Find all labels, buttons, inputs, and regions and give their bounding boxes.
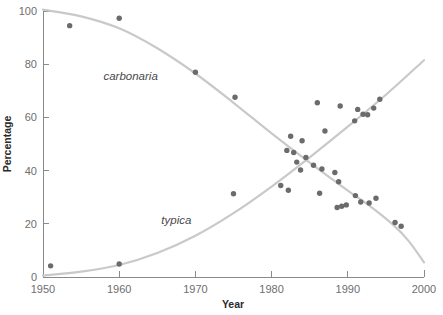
data-point-typica (231, 191, 236, 196)
x-tick-label: 1970 (183, 283, 207, 295)
data-point-carbonaria (353, 193, 358, 198)
data-point-typica (360, 112, 365, 117)
data-point-typica (288, 134, 293, 139)
series-label-typica: typica (161, 214, 191, 226)
x-tick-label: 1990 (336, 283, 360, 295)
data-point-carbonaria (339, 204, 344, 209)
data-point-typica (355, 107, 360, 112)
data-point-carbonaria (67, 23, 72, 28)
data-point-carbonaria (193, 69, 198, 74)
y-tick-label: 80 (25, 58, 37, 70)
x-tick-label: 2000 (412, 283, 436, 295)
data-point-carbonaria (319, 166, 324, 171)
series-label-carbonaria: carbonaria (103, 70, 157, 82)
data-point-carbonaria (334, 205, 339, 210)
data-point-carbonaria (398, 223, 403, 228)
data-point-typica (117, 261, 122, 266)
data-point-typica (371, 105, 376, 110)
data-point-carbonaria (291, 150, 296, 155)
data-point-carbonaria (284, 148, 289, 153)
x-tick-label: 1960 (107, 283, 131, 295)
data-point-carbonaria (311, 163, 316, 168)
data-point-carbonaria (294, 159, 299, 164)
data-point-carbonaria (344, 202, 349, 207)
y-axis-title: Percentage (1, 116, 13, 173)
data-point-carbonaria (366, 200, 371, 205)
data-point-typica (377, 97, 382, 102)
data-point-carbonaria (303, 155, 308, 160)
data-point-typica (315, 100, 320, 105)
data-point-carbonaria (392, 220, 397, 225)
plot-background (0, 0, 443, 315)
y-tick-label: 40 (25, 165, 37, 177)
chart-canvas: 020406080100 195019601970198019902000 ca… (0, 0, 443, 315)
chart-container: 020406080100 195019601970198019902000 ca… (0, 0, 443, 315)
y-tick-label: 100 (19, 5, 37, 17)
x-tick-label: 1950 (31, 283, 55, 295)
x-axis-title: Year (222, 298, 244, 310)
data-point-carbonaria (336, 179, 341, 184)
data-point-typica (337, 103, 342, 108)
data-point-typica (322, 128, 327, 133)
data-point-carbonaria (373, 196, 378, 201)
data-point-carbonaria (232, 94, 237, 99)
data-point-typica (299, 138, 304, 143)
data-point-carbonaria (317, 191, 322, 196)
data-point-typica (365, 112, 370, 117)
data-point-carbonaria (332, 170, 337, 175)
data-point-typica (278, 183, 283, 188)
data-point-carbonaria (298, 167, 303, 172)
data-point-carbonaria (358, 199, 363, 204)
data-point-typica (286, 188, 291, 193)
y-tick-label: 0 (31, 271, 37, 283)
y-tick-label: 20 (25, 218, 37, 230)
data-point-typica (352, 118, 357, 123)
y-tick-label: 60 (25, 111, 37, 123)
x-tick-label: 1980 (259, 283, 283, 295)
data-point-typica (48, 263, 53, 268)
data-point-carbonaria (117, 15, 122, 20)
